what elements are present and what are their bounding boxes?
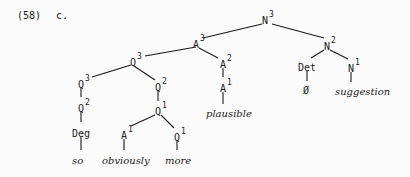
svg-text:Q: Q	[78, 79, 84, 90]
leaf-obviously: obviously	[102, 155, 150, 166]
svg-text:Deg: Deg	[72, 128, 90, 139]
svg-text:2: 2	[331, 36, 336, 45]
svg-text:3: 3	[200, 34, 205, 43]
leaf-suggestion: suggestion	[335, 86, 390, 97]
node-n1: N 1	[348, 58, 360, 74]
svg-text:A: A	[193, 39, 199, 50]
node-a1-right: A 1	[220, 78, 232, 94]
syntax-tree: N 3 A 3 Q 3 Q 3 Q 2 Deg Q 2 Q 1 A 1 Q 1 …	[0, 0, 410, 177]
svg-text:A: A	[220, 59, 226, 70]
svg-text:2: 2	[162, 77, 167, 86]
svg-text:Det: Det	[298, 62, 316, 73]
svg-text:Q: Q	[174, 132, 180, 143]
svg-text:A: A	[220, 83, 226, 94]
node-deg: Deg	[72, 128, 90, 139]
svg-text:2: 2	[227, 54, 232, 63]
svg-text:2: 2	[85, 98, 90, 107]
node-det: Det	[298, 62, 316, 73]
node-a1-left: A 1	[121, 125, 133, 141]
node-q1-mid: Q 1	[155, 101, 167, 117]
svg-text:Q: Q	[130, 57, 136, 68]
leaf-plausible: plausible	[206, 108, 252, 119]
svg-text:3: 3	[137, 52, 142, 61]
svg-text:N: N	[262, 15, 268, 26]
svg-text:3: 3	[85, 74, 90, 83]
node-q3-left: Q 3	[78, 74, 90, 90]
svg-text:1: 1	[227, 78, 232, 87]
svg-text:N: N	[348, 63, 354, 74]
node-a3: A 3	[193, 34, 205, 50]
node-q3-top: Q 3	[130, 52, 142, 68]
svg-text:Q: Q	[155, 106, 161, 117]
svg-text:1: 1	[355, 58, 360, 67]
svg-text:A: A	[121, 130, 127, 141]
svg-text:1: 1	[162, 101, 167, 110]
svg-text:3: 3	[269, 10, 274, 19]
svg-text:N: N	[324, 41, 330, 52]
leaf-so: so	[72, 155, 83, 166]
leaf-empty: Ø	[303, 85, 309, 96]
leaf-more: more	[165, 155, 191, 166]
svg-text:Q: Q	[155, 82, 161, 93]
node-n2: N 2	[324, 36, 336, 52]
node-q1-right: Q 1	[174, 127, 186, 143]
node-q2-left: Q 2	[78, 98, 90, 114]
node-q2-right: Q 2	[155, 77, 167, 93]
node-a2: A 2	[220, 54, 232, 70]
svg-text:1: 1	[181, 127, 186, 136]
svg-text:Q: Q	[78, 103, 84, 114]
svg-text:1: 1	[128, 125, 133, 134]
